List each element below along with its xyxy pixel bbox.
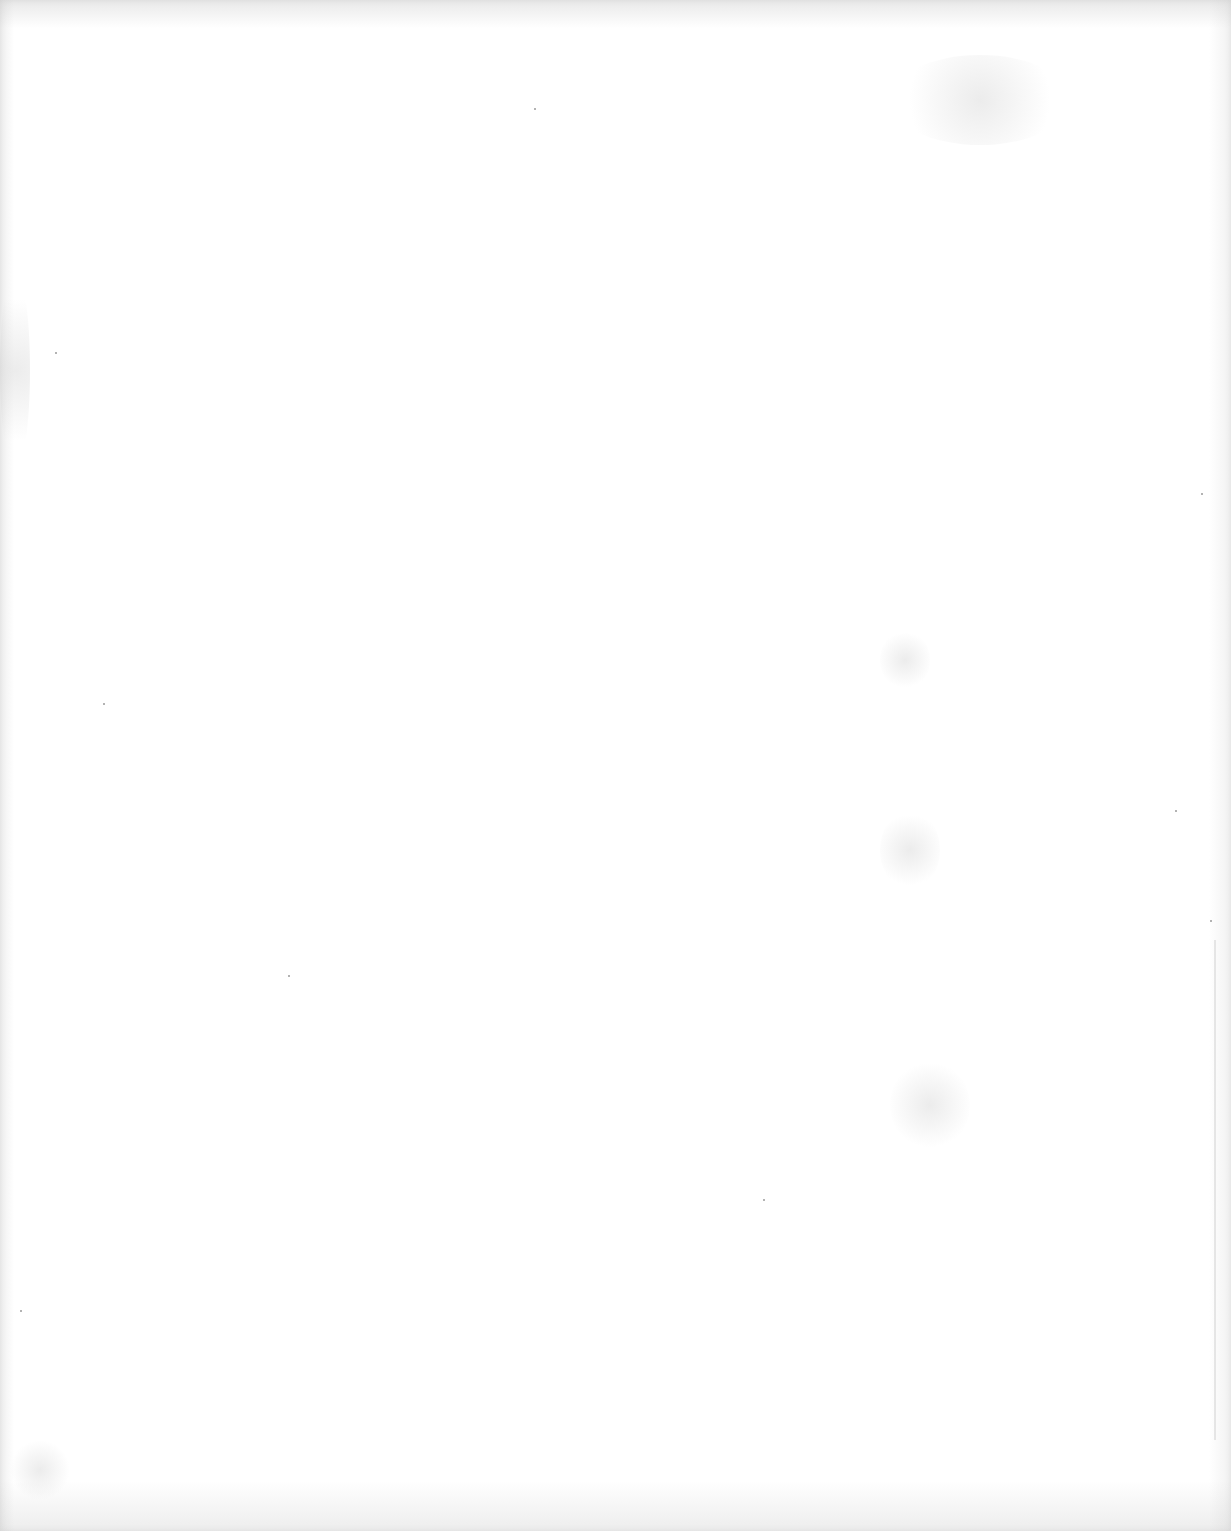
scan-noise-patch bbox=[880, 810, 940, 890]
scan-artifact-line bbox=[1214, 940, 1216, 1440]
scan-edge-shadow-left bbox=[0, 0, 14, 1531]
scan-speck bbox=[288, 975, 290, 977]
scan-edge-shadow-bottom bbox=[0, 1481, 1231, 1531]
scan-speck bbox=[1175, 810, 1177, 812]
scan-edge-shadow-top bbox=[0, 0, 1231, 28]
scan-noise-patch bbox=[10, 1440, 70, 1500]
scan-noise-patch bbox=[890, 55, 1070, 145]
scan-edge-shadow-right bbox=[1209, 0, 1231, 1531]
scan-speck bbox=[1201, 493, 1203, 495]
blank-scanned-page bbox=[0, 0, 1231, 1531]
scan-speck bbox=[55, 352, 57, 354]
scan-speck bbox=[763, 1199, 765, 1201]
scan-speck bbox=[103, 703, 105, 705]
scan-noise-patch bbox=[0, 270, 30, 470]
scan-speck bbox=[1210, 920, 1212, 922]
scan-noise-patch bbox=[880, 630, 930, 690]
scan-noise-patch bbox=[890, 1060, 970, 1150]
scan-speck bbox=[534, 108, 536, 110]
scan-speck bbox=[20, 1310, 22, 1312]
